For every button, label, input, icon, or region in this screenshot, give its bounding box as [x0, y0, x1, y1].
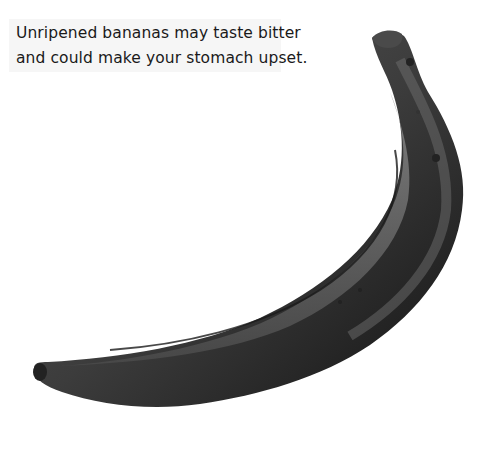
banana-image — [0, 0, 491, 449]
